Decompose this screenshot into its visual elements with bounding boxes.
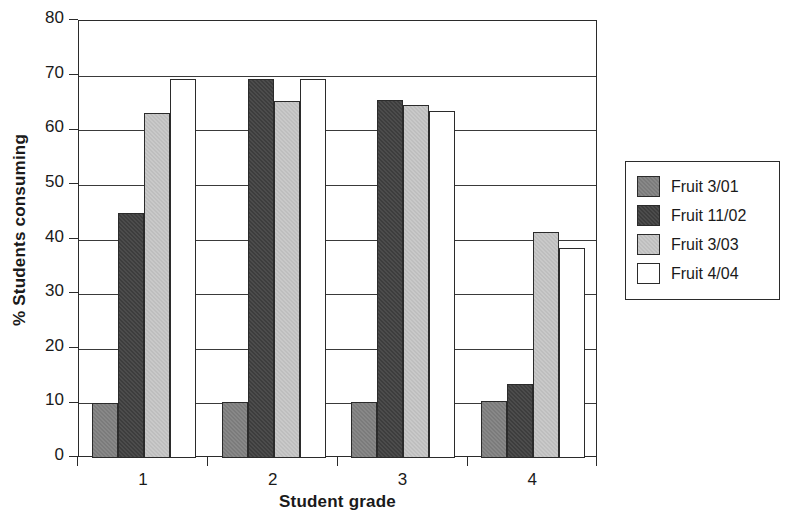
x-axis-tick-mark — [207, 457, 208, 466]
y-axis-tick-mark — [69, 183, 78, 184]
x-axis-tick-mark — [596, 457, 597, 466]
y-axis-tick-label: 80 — [45, 9, 64, 26]
y-axis-tick-label: 40 — [45, 228, 64, 245]
legend-swatch-icon — [637, 205, 660, 226]
gridline — [79, 76, 596, 77]
y-axis-tick-mark — [69, 74, 78, 75]
y-axis-tick-mark — [69, 19, 78, 20]
legend-item[interactable]: Fruit 11/02 — [637, 201, 770, 230]
y-axis-tick-label: 20 — [45, 337, 64, 354]
bar — [170, 79, 196, 458]
y-axis-tick-mark — [69, 129, 78, 130]
x-axis-title: Student grade — [78, 492, 597, 512]
x-axis-tick-label: 4 — [510, 470, 554, 490]
legend-item[interactable]: Fruit 3/01 — [637, 172, 770, 201]
legend-swatch-icon — [637, 176, 660, 197]
y-axis-title-text: % Students consuming — [10, 134, 30, 326]
bar — [429, 111, 455, 458]
bar — [144, 113, 170, 458]
chart-legend: Fruit 3/01Fruit 11/02Fruit 3/03Fruit 4/0… — [625, 161, 780, 300]
bar — [377, 100, 403, 458]
bar — [533, 232, 559, 458]
plot-area — [78, 20, 597, 457]
y-axis-tick-label: 50 — [45, 173, 64, 190]
legend-item[interactable]: Fruit 4/04 — [637, 259, 770, 288]
y-axis-title: % Students consuming — [0, 0, 40, 460]
legend-swatch-icon — [637, 234, 660, 255]
y-axis-tick-label: 0 — [55, 446, 64, 463]
x-axis-tick-label: 1 — [121, 470, 165, 490]
y-axis-tick-label: 10 — [45, 391, 64, 408]
y-axis-tick-mark — [69, 292, 78, 293]
legend-item-label: Fruit 11/02 — [671, 207, 746, 225]
bar — [507, 384, 533, 458]
bar — [222, 402, 248, 458]
y-axis-tick-label: 60 — [45, 118, 64, 135]
chart-figure: % Students consuming 01020304050607080 1… — [0, 0, 790, 530]
y-axis-tick-mark — [69, 402, 78, 403]
y-axis-tick-label: 30 — [45, 282, 64, 299]
x-axis-tick-mark — [337, 457, 338, 466]
legend-swatch-icon — [637, 263, 660, 284]
legend-item[interactable]: Fruit 3/03 — [637, 230, 770, 259]
bar — [351, 402, 377, 458]
x-axis-tick-mark — [467, 457, 468, 466]
y-axis-tick-mark — [69, 238, 78, 239]
legend-item-label: Fruit 4/04 — [671, 265, 739, 283]
bar — [92, 403, 118, 458]
bar — [481, 401, 507, 458]
bar — [559, 248, 585, 458]
x-axis-tick-label: 3 — [380, 470, 424, 490]
x-axis-tick-label: 2 — [251, 470, 295, 490]
bar — [118, 213, 144, 458]
y-axis-tick-mark — [69, 347, 78, 348]
y-axis-tick-label: 70 — [45, 64, 64, 81]
bar — [274, 101, 300, 458]
legend-item-label: Fruit 3/03 — [671, 236, 739, 254]
bar — [248, 79, 274, 458]
bar — [300, 79, 326, 458]
legend-item-label: Fruit 3/01 — [671, 178, 739, 196]
bar — [403, 105, 429, 458]
x-axis-tick-mark — [77, 457, 78, 466]
